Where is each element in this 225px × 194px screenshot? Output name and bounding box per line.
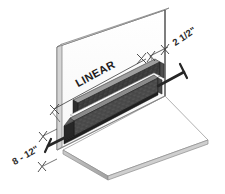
projection-dimension-label: 2 1/2" — [170, 24, 197, 47]
bumper-upper-rail-right-end — [160, 62, 164, 78]
isometric-bumper-diagram: LINEAR 2 1/2" — [0, 0, 225, 194]
spacing-tick-upper — [39, 131, 47, 142]
wall-left-edge — [57, 44, 62, 150]
drawing-canvas: LINEAR 2 1/2" — [0, 0, 225, 194]
spacing-leader-upper — [43, 129, 57, 136]
anchor-bolt-right-head — [180, 64, 187, 78]
spacing-tick-lower — [38, 161, 46, 172]
dimension-anchor-spacing: 8 - 12" — [10, 129, 57, 172]
anchor-spacing-label: 8 - 12" — [10, 143, 40, 167]
